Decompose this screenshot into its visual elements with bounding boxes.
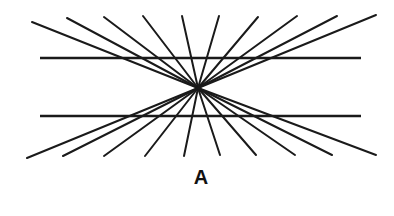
radiating-line xyxy=(63,88,198,156)
radiating-line xyxy=(198,15,376,88)
radiating-line xyxy=(198,16,297,88)
radiating-lines xyxy=(27,15,376,158)
radiating-line xyxy=(198,88,376,155)
radiating-line xyxy=(104,88,198,156)
radiating-line xyxy=(198,88,332,155)
figure-label: A xyxy=(0,167,394,187)
radiating-line xyxy=(198,16,337,88)
radiating-line xyxy=(67,18,198,88)
radiating-line xyxy=(198,16,219,88)
radiating-line xyxy=(198,17,258,88)
radiating-line xyxy=(27,88,198,158)
